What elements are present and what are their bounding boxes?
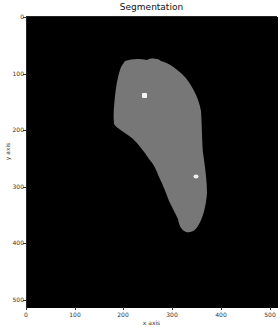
plot-area: [26, 16, 277, 307]
xtick-label-500: 500: [264, 311, 275, 318]
segmentation-image: [27, 17, 278, 308]
bright-spot-2: [194, 175, 199, 179]
xtick-label-400: 400: [215, 311, 226, 318]
xtick-label-0: 0: [24, 311, 28, 318]
xtick-mark-0: [26, 307, 27, 310]
ytick-label-500: 500: [13, 297, 24, 303]
xtick-label-100: 100: [69, 311, 80, 318]
xtick-mark-400: [221, 307, 222, 310]
xtick-label-300: 300: [166, 311, 177, 318]
chart-title: Segmentation: [26, 2, 277, 12]
xtick-mark-300: [172, 307, 173, 310]
ytick-label-200: 200: [13, 127, 24, 133]
ytick-label-400: 400: [13, 240, 24, 246]
xtick-label-200: 200: [117, 311, 128, 318]
ytick-label-0: 0: [20, 14, 24, 20]
x-axis-label: x axis: [26, 319, 277, 326]
xtick-mark-100: [75, 307, 76, 310]
ytick-label-300: 300: [13, 184, 24, 190]
xtick-mark-500: [270, 307, 271, 310]
ytick-label-100: 100: [13, 71, 24, 77]
bright-spot-1: [142, 93, 147, 98]
y-axis-label: y axis: [4, 137, 11, 167]
xtick-mark-200: [123, 307, 124, 310]
